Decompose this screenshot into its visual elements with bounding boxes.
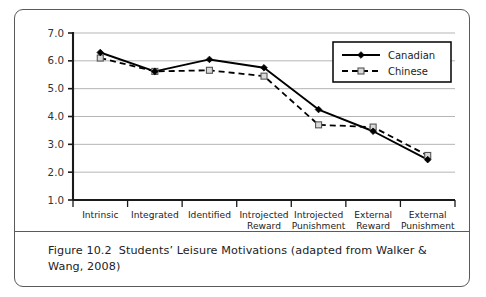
y-axis-tick-label: 3.0	[48, 138, 64, 150]
x-axis-category-label: Introjected	[294, 210, 343, 220]
figure-caption-label: Figure 10.2	[48, 244, 112, 257]
data-point-marker	[206, 56, 213, 63]
data-point-marker	[206, 67, 212, 73]
x-axis-category-label: External	[354, 210, 392, 220]
y-axis-tick-label: 1.0	[48, 194, 64, 206]
x-axis-category-label: Punishment	[401, 221, 455, 231]
x-axis-category-label: Integrated	[131, 210, 179, 220]
x-axis-category-label: Identified	[188, 210, 231, 220]
legend-label-canadian: Canadian	[388, 50, 435, 61]
x-axis-category-label: Reward	[356, 221, 390, 231]
data-point-marker	[316, 122, 322, 128]
data-point-marker	[358, 68, 364, 74]
line-chart: 7.06.05.04.03.02.01.0IntrinsicIntegrated…	[15, 10, 469, 232]
y-axis-tick-label: 5.0	[48, 82, 64, 94]
figure-frame: 7.06.05.04.03.02.01.0IntrinsicIntegrated…	[14, 9, 470, 287]
x-axis-category-label: Intrinsic	[82, 210, 118, 220]
caption-region: Figure 10.2Students’ Leisure Motivations…	[15, 232, 469, 286]
x-axis-category-label: Reward	[247, 221, 281, 231]
y-axis-tick-label: 6.0	[48, 54, 64, 66]
x-axis-category-label: External	[409, 210, 447, 220]
y-axis-tick-label: 4.0	[48, 110, 64, 122]
legend-label-chinese: Chinese	[388, 66, 428, 77]
y-axis-tick-label: 7.0	[48, 27, 64, 39]
figure-caption: Figure 10.2Students’ Leisure Motivations…	[48, 243, 446, 274]
x-axis-category-label: Punishment	[292, 221, 346, 231]
data-point-marker	[261, 73, 267, 79]
x-axis-category-label: Introjected	[239, 210, 288, 220]
y-axis-tick-label: 2.0	[48, 166, 64, 178]
plot-region: 7.06.05.04.03.02.01.0IntrinsicIntegrated…	[15, 10, 469, 232]
